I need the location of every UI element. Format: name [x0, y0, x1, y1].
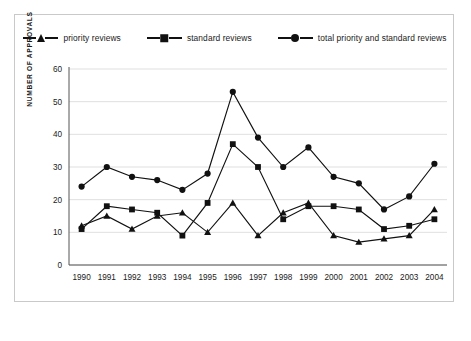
data-point-square [129, 207, 135, 213]
data-point-circle [255, 135, 261, 141]
data-point-square [104, 203, 110, 209]
data-point-circle [154, 177, 160, 183]
x-tick-label: 1994 [173, 273, 192, 282]
series-line [82, 144, 435, 235]
data-point-circle [431, 161, 437, 167]
x-tick-label: 1990 [72, 273, 91, 282]
data-point-triangle [103, 213, 110, 219]
data-point-circle [305, 144, 311, 150]
data-point-triangle [229, 199, 236, 205]
y-tick-label: 20 [53, 196, 63, 205]
data-point-circle [356, 180, 362, 186]
data-point-square [356, 207, 362, 213]
x-tick-label: 2004 [425, 273, 444, 282]
data-point-square [406, 223, 412, 229]
data-point-square [180, 233, 186, 239]
series-triangle [78, 199, 438, 244]
data-point-square [230, 141, 236, 147]
data-point-square [331, 203, 337, 209]
data-point-circle [381, 206, 387, 212]
data-point-circle [406, 193, 412, 199]
chart-figure-frame: priority reviews standard reviews total … [14, 14, 454, 302]
line-chart-svg: 0102030405060199019911992199319941995199… [15, 15, 455, 303]
data-point-circle [79, 184, 85, 190]
data-point-square [79, 226, 85, 232]
data-point-triangle [179, 209, 186, 215]
x-tick-label: 1995 [198, 273, 217, 282]
data-point-circle [129, 174, 135, 180]
data-point-square [432, 216, 438, 222]
x-tick-label: 1999 [299, 273, 318, 282]
y-tick-label: 60 [53, 65, 63, 74]
data-point-square [255, 164, 261, 170]
series-circle [79, 89, 438, 213]
y-tick-label: 30 [53, 163, 63, 172]
y-tick-label: 50 [53, 98, 63, 107]
x-tick-label: 2000 [324, 273, 343, 282]
x-tick-label: 1993 [148, 273, 167, 282]
y-tick-label: 0 [57, 261, 62, 270]
y-tick-label: 40 [53, 130, 63, 139]
y-tick-label: 10 [53, 228, 63, 237]
data-point-circle [331, 174, 337, 180]
x-tick-label: 1996 [224, 273, 243, 282]
data-point-square [280, 216, 286, 222]
data-point-circle [280, 164, 286, 170]
data-point-triangle [129, 226, 136, 232]
data-point-square [205, 200, 211, 206]
data-point-square [306, 203, 312, 209]
x-tick-label: 2003 [400, 273, 419, 282]
x-tick-label: 2001 [350, 273, 369, 282]
x-tick-label: 1992 [123, 273, 142, 282]
series-line [82, 92, 435, 210]
x-tick-label: 1991 [98, 273, 117, 282]
series-square [79, 141, 438, 238]
data-point-square [154, 210, 160, 216]
data-point-circle [205, 170, 211, 176]
data-point-circle [104, 164, 110, 170]
data-point-circle [179, 187, 185, 193]
data-point-circle [230, 89, 236, 95]
x-tick-label: 1998 [274, 273, 293, 282]
data-point-triangle [431, 206, 438, 212]
data-point-square [381, 226, 387, 232]
x-tick-label: 2002 [375, 273, 394, 282]
x-tick-label: 1997 [249, 273, 268, 282]
plot-area: NUMBER OF APPROVALS 01020304050601990199… [15, 15, 455, 303]
